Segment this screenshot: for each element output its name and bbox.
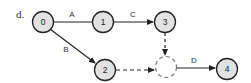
edge-B: B [50, 29, 95, 63]
edge-A: A [53, 10, 92, 22]
svg-text:2: 2 [103, 65, 108, 75]
figure-label: d. [16, 8, 25, 20]
edge-D: D [177, 56, 215, 68]
edge-C: C [113, 10, 153, 22]
svg-text:A: A [69, 10, 75, 19]
svg-text:1: 1 [101, 17, 106, 27]
svg-text:C: C [130, 10, 136, 19]
svg-text:D: D [191, 56, 197, 65]
node-4: 4 [217, 59, 238, 80]
svg-text:B: B [63, 45, 68, 54]
network-diagram: d. A B C D 0 1 3 2 4 [0, 0, 251, 83]
node-3: 3 [155, 12, 176, 33]
node-dummy [156, 57, 177, 78]
svg-text:3: 3 [163, 17, 168, 27]
node-1: 1 [93, 12, 114, 33]
node-2: 2 [95, 60, 116, 81]
svg-text:4: 4 [225, 64, 230, 74]
node-0: 0 [33, 12, 54, 33]
svg-text:0: 0 [41, 17, 46, 27]
